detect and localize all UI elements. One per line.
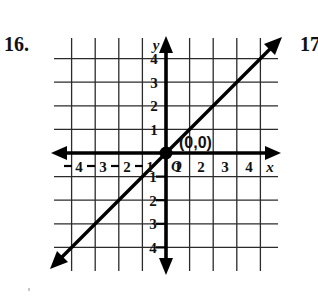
y-tick-label-2: 2 <box>150 98 158 114</box>
problem-number: 16. <box>4 33 29 56</box>
graph-svg: 4 3 2 1 1 2 3 4 4 3 2 1 1 2 3 4 O y x <box>46 32 286 284</box>
y-tick-label-neg4: 4 <box>149 240 157 256</box>
x-tick-label-neg1: 1 <box>146 159 154 175</box>
coordinate-plane-graph: 4 3 2 1 1 2 3 4 4 3 2 1 1 2 3 4 O y x <box>46 32 286 284</box>
x-axis-name: x <box>265 159 274 175</box>
x-tick-label-4: 4 <box>245 159 253 175</box>
origin-coordinate-label: (0,0) <box>179 134 212 151</box>
x-tick-label-neg2: 2 <box>123 159 131 175</box>
x-tick-label-neg4: 4 <box>75 159 83 175</box>
x-axis-left-arrowhead <box>51 146 67 160</box>
x-tick-label-neg3: 3 <box>99 159 107 175</box>
worksheet-figure: 16. 17 <box>0 0 318 304</box>
paper-speck <box>28 288 30 291</box>
x-tick-label-3: 3 <box>221 159 229 175</box>
x-tick-label-2: 2 <box>197 159 205 175</box>
x-axis-right-arrowhead <box>265 146 281 160</box>
y-tick-label-neg3: 3 <box>149 216 157 232</box>
y-tick-label-3: 3 <box>150 75 158 91</box>
next-problem-number: 17 <box>300 33 318 56</box>
y-axis-negative-ticks <box>156 177 165 248</box>
y-axis-name: y <box>151 37 160 53</box>
origin-label: O <box>171 158 182 174</box>
y-tick-label-1: 1 <box>150 122 158 138</box>
y-axis-down-arrowhead <box>159 258 173 275</box>
y-axis-up-arrowhead <box>159 36 173 53</box>
y-tick-label-neg2: 2 <box>149 193 157 209</box>
y-tick-label-4: 4 <box>150 51 158 67</box>
